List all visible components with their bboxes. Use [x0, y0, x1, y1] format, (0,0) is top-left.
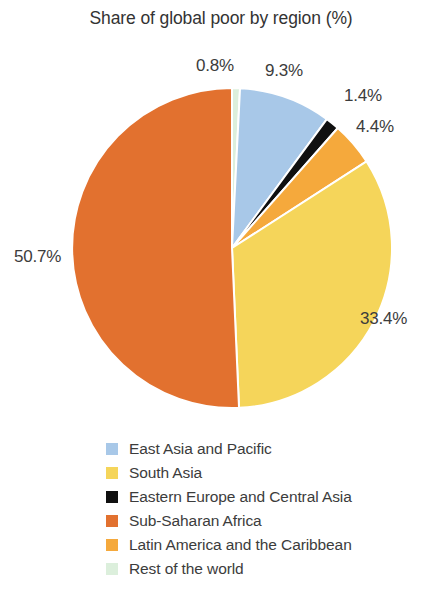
slice-value-label-sub-saharan-africa: 50.7%	[14, 247, 61, 267]
pie-slices-group	[72, 88, 392, 408]
legend-item[interactable]: South Asia	[106, 461, 442, 485]
legend-item-label: Latin America and the Caribbean	[129, 537, 352, 553]
legend-swatch-rest-of-the-world	[106, 563, 118, 575]
legend-item-label: Sub-Saharan Africa	[129, 513, 262, 529]
legend-item[interactable]: East Asia and Pacific	[106, 437, 442, 461]
pie-slice-sub-saharan-africa	[72, 88, 239, 408]
legend-item-label: East Asia and Pacific	[129, 441, 272, 457]
slice-value-label-latin-america-and-the-caribbean: 4.4%	[356, 117, 394, 137]
legend-swatch-sub-saharan-africa	[106, 515, 118, 527]
legend-item-label: Eastern Europe and Central Asia	[129, 489, 352, 505]
legend-swatch-east-asia-and-pacific	[106, 443, 118, 455]
legend-item[interactable]: Rest of the world	[106, 557, 442, 581]
legend-swatch-eastern-europe-and-central-asia	[106, 491, 118, 503]
slice-value-label-eastern-europe-and-central-asia: 1.4%	[344, 86, 382, 106]
pie-chart-figure: Share of global poor by region (%) 0.8% …	[0, 0, 442, 603]
slice-value-label-rest-of-the-world: 0.8%	[196, 56, 234, 76]
legend-item[interactable]: Latin America and the Caribbean	[106, 533, 442, 557]
chart-title: Share of global poor by region (%)	[0, 8, 442, 29]
legend-swatch-south-asia	[106, 467, 118, 479]
legend-item-label: Rest of the world	[129, 561, 244, 577]
legend-item-label: South Asia	[129, 465, 202, 481]
legend-item[interactable]: Sub-Saharan Africa	[106, 509, 442, 533]
pie-plot-area: 0.8% 9.3% 1.4% 4.4% 33.4% 50.7%	[0, 38, 442, 418]
chart-legend: East Asia and PacificSouth AsiaEastern E…	[106, 437, 442, 581]
slice-value-label-east-asia-and-pacific: 9.3%	[265, 61, 303, 81]
legend-item[interactable]: Eastern Europe and Central Asia	[106, 485, 442, 509]
slice-value-label-south-asia: 33.4%	[360, 309, 407, 329]
legend-swatch-latin-america-and-the-caribbean	[106, 539, 118, 551]
